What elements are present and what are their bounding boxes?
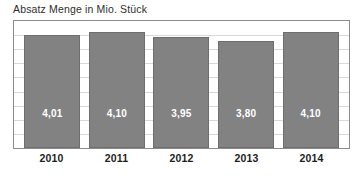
bar-slot: 4,10: [283, 21, 339, 148]
x-axis-label-2010: 2010: [24, 151, 80, 169]
bar-slot: 3,95: [153, 21, 209, 148]
bar-value-label: 3,95: [154, 108, 208, 119]
bar-slot: 4,01: [24, 21, 80, 148]
chart-title: Absatz Menge in Mio. Stück: [13, 2, 147, 16]
x-axis-label-2011: 2011: [89, 151, 145, 169]
bar[interactable]: 4,01: [24, 35, 80, 148]
bar-chart-figure: Absatz Menge in Mio. Stück 4,014,103,953…: [0, 0, 363, 178]
bar[interactable]: 3,80: [218, 41, 274, 148]
bar-value-label: 4,10: [90, 108, 144, 119]
bar-value-label: 4,10: [284, 108, 338, 119]
x-axis-label-2013: 2013: [219, 151, 275, 169]
bar-slot: 4,10: [89, 21, 145, 148]
bar-value-label: 3,80: [219, 108, 273, 119]
x-axis-labels: 20102011201220132014: [13, 151, 350, 169]
bars-layer: 4,014,103,953,804,10: [14, 21, 349, 148]
plot-area: 4,014,103,953,804,10: [13, 20, 350, 149]
bar[interactable]: 3,95: [153, 37, 209, 148]
x-axis-label-2014: 2014: [284, 151, 340, 169]
bar-slot: 3,80: [218, 21, 274, 148]
x-axis-label-2012: 2012: [154, 151, 210, 169]
bar[interactable]: 4,10: [89, 32, 145, 148]
bar-value-label: 4,01: [25, 108, 79, 119]
bar[interactable]: 4,10: [283, 32, 339, 148]
